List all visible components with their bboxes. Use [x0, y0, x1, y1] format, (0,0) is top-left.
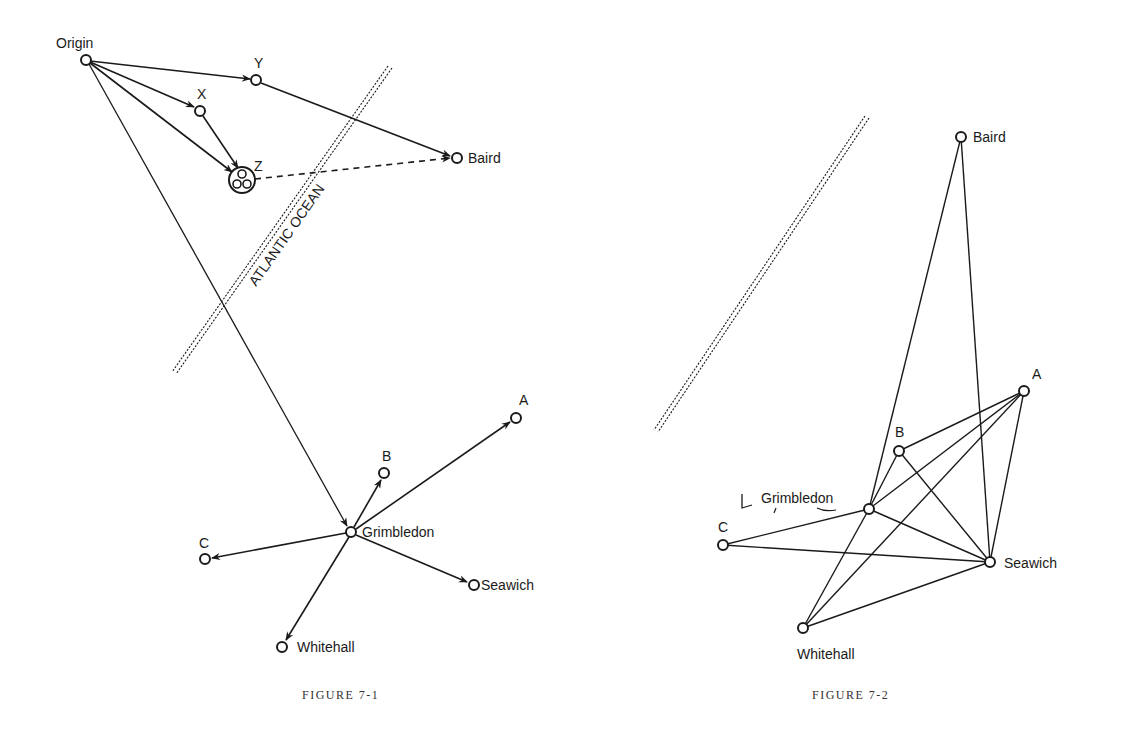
node-grimbledon	[864, 504, 874, 514]
edge-grimbledon-seawich	[356, 535, 467, 582]
label-seawich: Seawich	[481, 577, 534, 593]
edge-a-b	[899, 391, 1024, 451]
node-a	[511, 413, 521, 423]
figure-7-2-labels: Baird A B Grimbledon C Seawich Whitehall…	[718, 129, 1057, 702]
node-baird	[956, 132, 966, 142]
label-baird: Baird	[973, 129, 1006, 145]
label-whitehall: Whitehall	[797, 646, 855, 662]
edge-whitehall-seawich	[803, 562, 990, 628]
edge-baird-seawich	[961, 137, 990, 562]
node-whitehall	[277, 642, 287, 652]
caption-figure-7-1: FIGURE 7-1	[302, 688, 379, 702]
label-a: A	[1032, 366, 1042, 382]
node-baird	[452, 153, 462, 163]
caption-figure-7-2: FIGURE 7-2	[812, 688, 889, 702]
label-atlantic-ocean: ATLANTIC OCEAN	[245, 181, 327, 289]
label-b: B	[382, 448, 391, 464]
label-c: C	[199, 535, 209, 551]
edge-c-seawich	[723, 545, 990, 562]
label-origin: Origin	[56, 35, 93, 51]
edge-grimbledon-seawich	[869, 509, 990, 562]
node-x	[195, 106, 205, 116]
label-grimbledon: Grimbledon	[362, 524, 434, 540]
edge-a-seawich	[990, 391, 1024, 562]
figure-7-1	[81, 55, 521, 652]
node-seawich	[985, 557, 995, 567]
edge-grimbledon-c	[723, 509, 869, 545]
edge-grimbledon-c	[212, 533, 346, 558]
node-origin	[81, 55, 91, 65]
label-seawich: Seawich	[1004, 555, 1057, 571]
ocean-boundary	[654, 116, 869, 432]
label-a: A	[519, 392, 529, 408]
edge-origin-x	[90, 62, 194, 107]
edge-y-baird	[261, 83, 450, 156]
annotation-mark	[742, 494, 752, 508]
node-c	[200, 554, 210, 564]
figure-7-1-labels: Origin Y X Z Baird Grimbledon A B C Seaw…	[56, 35, 534, 702]
node-b	[379, 468, 389, 478]
label-baird: Baird	[468, 150, 501, 166]
edge-origin-z	[90, 63, 232, 172]
edge-origin-grimbledon	[89, 64, 347, 526]
annotation-mark	[774, 508, 776, 513]
node-seawich	[469, 580, 479, 590]
label-b: B	[895, 424, 904, 440]
label-x: X	[197, 86, 207, 102]
edge-origin-y	[90, 61, 250, 79]
label-y: Y	[254, 55, 264, 71]
label-c: C	[718, 519, 728, 535]
node-y	[251, 75, 261, 85]
edge-grimbledon-b	[354, 480, 381, 527]
figure-7-2	[654, 116, 1029, 633]
label-z: Z	[254, 158, 263, 174]
label-grimbledon: Grimbledon	[761, 490, 833, 506]
edge-a-whitehall	[803, 391, 1024, 628]
node-grimbledon	[346, 527, 356, 537]
edge-b-seawich	[899, 451, 990, 562]
edge-x-z	[203, 116, 238, 168]
node-z-cluster	[229, 167, 255, 193]
node-b	[894, 446, 904, 456]
edge-z-baird-dashed	[255, 158, 450, 179]
node-c	[718, 540, 728, 550]
edge-b-grimbledon	[869, 451, 899, 509]
node-a	[1019, 386, 1029, 396]
edge-grimbledon-whitehall	[286, 537, 349, 640]
edge-baird-grimbledon	[869, 137, 961, 509]
label-whitehall: Whitehall	[297, 639, 355, 655]
node-whitehall	[798, 623, 808, 633]
edge-a-grimbledon	[869, 391, 1024, 509]
diagram-canvas: Origin Y X Z Baird Grimbledon A B C Seaw…	[0, 0, 1129, 751]
annotation-mark	[817, 508, 836, 511]
